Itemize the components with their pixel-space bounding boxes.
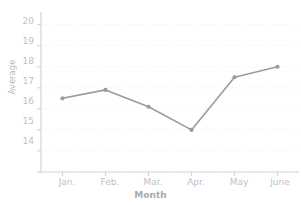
x-axis-ticks [63, 172, 278, 176]
data-point-feb [103, 88, 107, 92]
data-line-average [63, 67, 278, 130]
data-point-may [232, 75, 236, 79]
data-point-june [275, 65, 279, 69]
line-chart: Average Month 20 19 18 17 16 15 14 Jan. … [0, 0, 301, 205]
plot-area [0, 0, 301, 205]
data-point-mar [146, 105, 150, 109]
data-point-jan [60, 96, 64, 100]
data-point-apr [189, 128, 193, 132]
gridlines [41, 25, 299, 172]
axis-spines [41, 12, 299, 172]
